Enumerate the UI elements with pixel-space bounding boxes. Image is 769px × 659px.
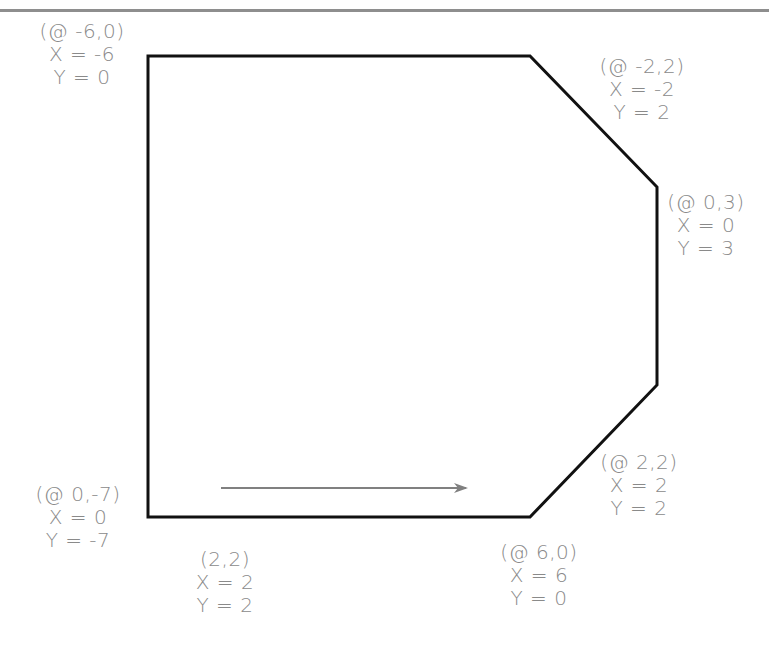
polygon-outline [148,56,657,517]
vertex-label-v4: (@ -2,2) X = -2 Y = 2 [582,55,702,124]
start-x: X = 2 [170,571,280,594]
vertex-y: Y = 0 [480,587,598,610]
vertex-x: X = 0 [18,506,138,529]
vertex-y: Y = 2 [580,497,698,520]
vertex-x: X = 6 [480,564,598,587]
vertex-y: Y = 2 [582,101,702,124]
vertex-x: X = 2 [580,474,698,497]
vertex-x: X = -6 [22,43,142,66]
vertex-coord: (@ 0,3) [650,191,762,214]
vertex-coord: (@ 2,2) [580,451,698,474]
vertex-y: Y = 0 [22,66,142,89]
vertex-y: Y = 3 [650,237,762,260]
vertex-label-v2: (@ 2,2) X = 2 Y = 2 [580,451,698,520]
vertex-y: Y = -7 [18,529,138,552]
vertex-x: X = -2 [582,78,702,101]
vertex-coord: (@ 6,0) [480,541,598,564]
vertex-x: X = 0 [650,214,762,237]
vertex-label-v6: (@ 0,-7) X = 0 Y = -7 [18,483,138,552]
start-y: Y = 2 [170,594,280,617]
vertex-coord: (@ 0,-7) [18,483,138,506]
vertex-coord: (@ -2,2) [582,55,702,78]
vertex-label-v1: (@ 6,0) X = 6 Y = 0 [480,541,598,610]
start-coord: (2,2) [170,548,280,571]
start-point-label: (2,2) X = 2 Y = 2 [170,548,280,617]
vertex-label-v3: (@ 0,3) X = 0 Y = 3 [650,191,762,260]
vertex-coord: (@ -6,0) [22,20,142,43]
vertex-label-v5: (@ -6,0) X = -6 Y = 0 [22,20,142,89]
